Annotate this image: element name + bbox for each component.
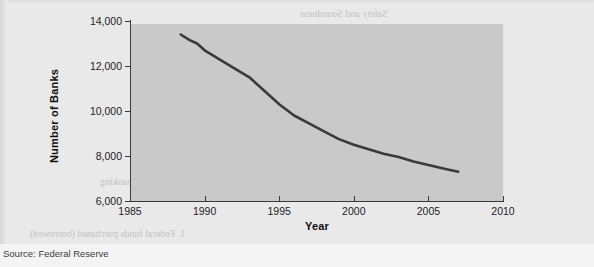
scanned-page: Safety and Soundness Summary Points 1. F…	[0, 0, 594, 267]
series-line-number-of-banks	[181, 35, 459, 172]
series-svg	[0, 0, 594, 244]
source-note: Source: Federal Reserve	[3, 248, 109, 259]
line-chart: 6,0008,00010,00012,00014,000 19851990199…	[0, 0, 594, 244]
